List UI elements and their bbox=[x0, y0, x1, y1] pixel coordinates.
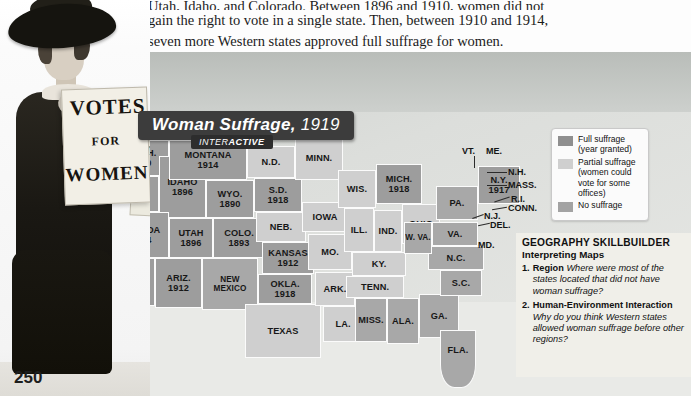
state-name: MINN. bbox=[306, 153, 333, 164]
skillbuilder-question-2: 2. Human-Environment Interaction Why do … bbox=[522, 300, 685, 346]
skillbuilder-subheading: Interpreting Maps bbox=[522, 249, 685, 260]
state-name: S.C. bbox=[452, 278, 470, 289]
state-name: S.D. bbox=[269, 185, 287, 196]
body-line-1: Utah, Idaho, and Colorado. Between 1896 … bbox=[148, 0, 668, 10]
leader-line-vt bbox=[474, 156, 475, 168]
state-year: 1890 bbox=[220, 199, 241, 210]
state-year: 1914 bbox=[198, 160, 219, 171]
state-year: 1896 bbox=[181, 238, 202, 249]
state-minn[interactable]: MINN. bbox=[295, 136, 343, 180]
state-tenn[interactable]: TENN. bbox=[346, 276, 404, 298]
question-topic: Human-Environment Interaction bbox=[533, 300, 673, 310]
state-name: FLA. bbox=[448, 345, 469, 356]
state-year: 1893 bbox=[229, 238, 250, 249]
state-nd[interactable]: N.D. bbox=[247, 146, 295, 178]
label-del: DEL. bbox=[490, 220, 511, 230]
figure-hat-brim bbox=[7, 0, 118, 51]
state-neb[interactable]: NEB. bbox=[256, 212, 306, 242]
map-top-shade bbox=[110, 52, 691, 112]
body-paragraph: Utah, Idaho, and Colorado. Between 1896 … bbox=[148, 0, 668, 52]
state-utah[interactable]: UTAH 1896 bbox=[169, 218, 213, 258]
legend-label-full-1: Full suffrage bbox=[578, 134, 632, 144]
geography-skillbuilder: GEOGRAPHY SKILLBUILDER Interpreting Maps… bbox=[516, 233, 691, 377]
state-name: IOWA bbox=[313, 212, 338, 223]
legend-swatch-partial-icon bbox=[558, 159, 573, 169]
state-ala[interactable]: ALA. bbox=[387, 298, 419, 344]
state-texas[interactable]: TEXAS bbox=[245, 304, 321, 358]
state-name: WIS. bbox=[347, 184, 367, 195]
state-name: GA. bbox=[431, 311, 448, 322]
state-mich[interactable]: MICH. 1918 bbox=[376, 164, 422, 204]
state-kansas[interactable]: KANSAS 1912 bbox=[262, 242, 314, 274]
skillbuilder-heading: GEOGRAPHY SKILLBUILDER bbox=[522, 237, 685, 248]
state-name: ARK. bbox=[324, 284, 347, 295]
state-name: LA. bbox=[335, 319, 350, 330]
label-md: MD. bbox=[478, 240, 495, 250]
leader-line-mass bbox=[487, 185, 507, 186]
state-year: 1918 bbox=[389, 184, 410, 195]
state-name: MICH. bbox=[386, 174, 413, 185]
label-me: ME. bbox=[486, 146, 502, 156]
placard-line-2: FOR bbox=[64, 133, 148, 151]
state-name: IND. bbox=[379, 226, 398, 237]
state-wva[interactable]: W. VA. bbox=[404, 222, 432, 254]
state-year: 1918 bbox=[275, 289, 296, 300]
state-year: 1912 bbox=[168, 283, 189, 294]
state-new-mexico[interactable]: NEW MEXICO bbox=[202, 258, 258, 310]
question-number: 2. bbox=[522, 300, 530, 346]
state-name: MO. bbox=[321, 247, 339, 258]
legend-label-partial-1: Partial suffrage bbox=[578, 157, 636, 167]
map-title-main: Woman Suffrage, bbox=[152, 115, 296, 134]
label-nh: N.H. bbox=[508, 167, 526, 177]
suffragist-photo: W C T VOTES FOR WOMEN 250 bbox=[0, 0, 150, 396]
placard-line-1: VOTES bbox=[68, 94, 147, 122]
state-miss[interactable]: MISS. bbox=[355, 298, 387, 342]
state-fla[interactable]: FLA. bbox=[440, 330, 476, 388]
state-ky[interactable]: KY. bbox=[352, 252, 406, 276]
state-name: N.D. bbox=[262, 157, 281, 168]
state-name: KANSAS bbox=[268, 248, 307, 259]
legend-label-partial-2: (women could bbox=[578, 167, 636, 177]
page-number: 250 bbox=[14, 368, 42, 388]
question-number: 1. bbox=[522, 263, 530, 297]
state-name: W. VA. bbox=[405, 233, 430, 242]
state-name: N.C. bbox=[447, 253, 466, 264]
state-pa[interactable]: PA. bbox=[436, 186, 478, 220]
body-line-3: seven more Western states approved full … bbox=[148, 31, 668, 52]
legend-label-full-2: (year granted) bbox=[578, 144, 632, 154]
suffragist-figure: W C T VOTES FOR WOMEN bbox=[0, 0, 150, 396]
label-vt: VT. bbox=[462, 146, 475, 156]
state-name: N.Y. bbox=[490, 175, 507, 186]
state-ariz[interactable]: ARIZ. 1912 bbox=[155, 258, 202, 308]
state-nc[interactable]: N.C. bbox=[428, 246, 484, 270]
state-year: 1896 bbox=[172, 187, 193, 198]
legend-label-none: No suffrage bbox=[578, 200, 622, 210]
leader-line-nh bbox=[487, 172, 507, 173]
placard-line-3: WOMEN bbox=[65, 162, 150, 187]
interactive-badge[interactable]: INTERACTIVE bbox=[191, 135, 273, 149]
question-text: Why do you think Western states allowed … bbox=[533, 312, 684, 345]
state-name: WYO. bbox=[218, 189, 243, 200]
state-ind[interactable]: IND. bbox=[374, 210, 402, 252]
state-wyo[interactable]: WYO. 1890 bbox=[206, 180, 254, 218]
body-line-2: gain the right to vote in a single state… bbox=[148, 10, 668, 31]
legend-item-none: No suffrage bbox=[558, 200, 642, 212]
state-va[interactable]: VA. bbox=[432, 222, 478, 246]
question-topic: Region bbox=[533, 263, 564, 273]
state-year: 1918 bbox=[268, 195, 289, 206]
votes-for-women-placard: VOTES FOR WOMEN bbox=[61, 87, 150, 206]
state-name: UTAH bbox=[178, 228, 203, 239]
legend-label-partial-4: offices) bbox=[578, 188, 636, 198]
map-legend: Full suffrage (year granted) Partial suf… bbox=[551, 128, 649, 221]
interactive-suffix: ACTIVE bbox=[229, 137, 265, 147]
state-name: COLO. bbox=[224, 228, 254, 239]
state-wis[interactable]: WIS. bbox=[338, 170, 376, 208]
state-name: OKLA. bbox=[270, 279, 299, 290]
state-okla[interactable]: OKLA. 1918 bbox=[258, 274, 312, 304]
state-name: MONTANA bbox=[185, 150, 232, 161]
state-sd[interactable]: S.D. 1918 bbox=[254, 178, 302, 212]
state-name: TEXAS bbox=[267, 326, 298, 337]
state-name: KY. bbox=[372, 259, 387, 270]
state-ill[interactable]: ILL. bbox=[344, 208, 374, 252]
state-sc[interactable]: S.C. bbox=[440, 270, 482, 296]
